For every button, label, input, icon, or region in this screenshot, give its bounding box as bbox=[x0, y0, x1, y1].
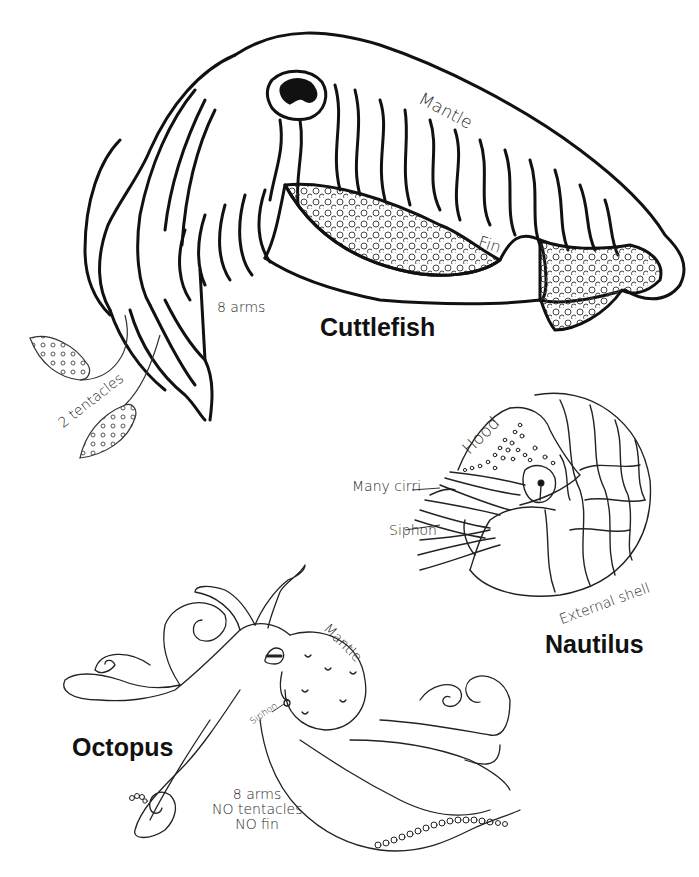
octopus-note-line-2: NO tentacles bbox=[212, 802, 302, 817]
nautilus-drawing bbox=[415, 393, 650, 596]
cuttlefish-title: Cuttlefish bbox=[320, 313, 435, 342]
octopus-note: 8 arms NO tentacles NO fin bbox=[212, 787, 302, 832]
nautilus-siphon-label: Siphon bbox=[389, 522, 437, 538]
octopus-note-line-1: 8 arms bbox=[212, 787, 302, 802]
nautilus-title: Nautilus bbox=[545, 630, 644, 659]
nautilus-cirri-label: Many cirri bbox=[352, 478, 421, 494]
cuttlefish-arms-label: 8 arms bbox=[217, 299, 265, 315]
cuttlefish-drawing bbox=[85, 33, 684, 420]
octopus-title: Octopus bbox=[72, 733, 173, 762]
octopus-note-line-3: NO fin bbox=[212, 817, 302, 832]
